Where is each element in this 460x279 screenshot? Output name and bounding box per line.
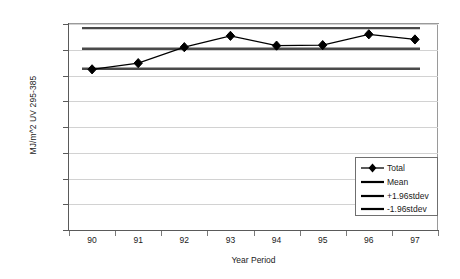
legend-swatch-icon xyxy=(360,175,385,189)
legend-label: +1.96stdev xyxy=(387,191,429,202)
data-point-marker xyxy=(134,59,142,68)
legend-item: -1.96stdev xyxy=(356,202,439,216)
legend-label: -1.96stdev xyxy=(387,204,427,215)
x-axis-title: Year Period xyxy=(69,255,438,265)
legend-item: Total xyxy=(356,161,439,175)
legend-item: Mean xyxy=(356,175,439,189)
chart-legend: TotalMean+1.96stdev-1.96stdev xyxy=(355,157,438,216)
legend-item: +1.96stdev xyxy=(356,189,439,203)
series-layer xyxy=(0,0,460,279)
line-chart: MJ/m^2 UV 295-385 0.0050.00100.00150.002… xyxy=(0,0,460,279)
legend-swatch-icon xyxy=(360,161,385,175)
legend-swatch-icon xyxy=(360,189,385,203)
legend-label: Total xyxy=(387,163,405,174)
data-point-marker xyxy=(411,35,419,44)
data-point-marker xyxy=(88,65,96,74)
data-point-marker xyxy=(226,31,234,40)
data-point-marker xyxy=(180,43,188,52)
legend-swatch-icon xyxy=(360,202,385,216)
legend-label: Mean xyxy=(387,177,408,188)
data-point-marker xyxy=(365,30,373,39)
